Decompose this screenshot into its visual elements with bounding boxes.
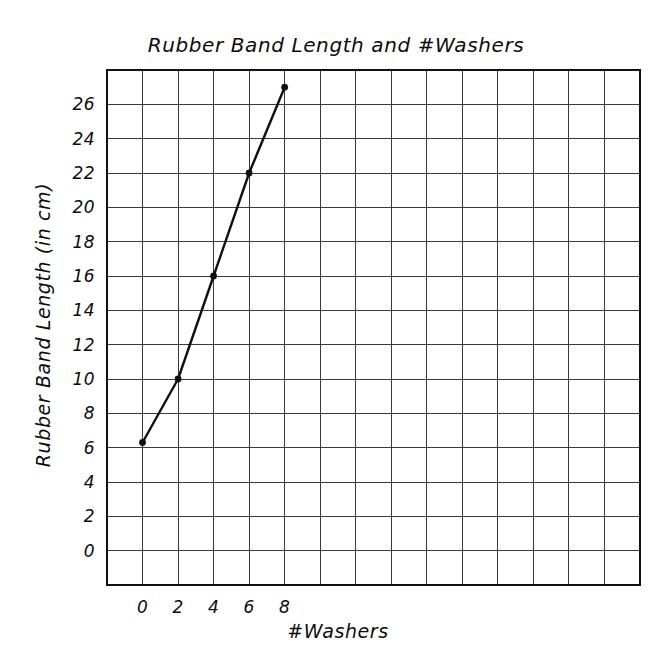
y-tick-label: 22 (73, 163, 95, 183)
data-point-marker (210, 273, 217, 280)
y-tick-label: 18 (73, 232, 95, 252)
y-tick-label: 0 (84, 541, 95, 561)
x-tick-label: 4 (208, 597, 219, 617)
y-tick-label: 8 (84, 403, 95, 423)
x-tick-label: 2 (172, 597, 183, 617)
y-tick-label: 14 (73, 300, 95, 320)
chart-title: Rubber Band Length and #Washers (148, 33, 525, 57)
y-tick-label: 12 (73, 335, 95, 355)
y-tick-label: 26 (73, 94, 95, 114)
data-point-marker (246, 170, 253, 177)
data-point-marker (175, 376, 182, 383)
chart-background (0, 0, 672, 658)
line-chart: Rubber Band Length and #Washers 02468101… (0, 0, 672, 658)
data-point-marker (281, 84, 288, 91)
y-tick-label: 20 (73, 197, 95, 217)
y-tick-label: 6 (84, 438, 95, 458)
y-axis-title: Rubber Band Length (in cm) (32, 183, 54, 467)
x-tick-label: 8 (279, 597, 290, 617)
y-tick-label: 2 (84, 506, 95, 526)
data-point-marker (139, 439, 146, 446)
y-tick-label: 4 (84, 472, 95, 492)
chart-container: Rubber Band Length and #Washers 02468101… (0, 0, 672, 658)
x-axis-title: #Washers (287, 620, 388, 642)
y-tick-label: 16 (73, 266, 95, 286)
y-tick-label: 24 (73, 129, 95, 149)
x-tick-label: 0 (137, 597, 148, 617)
y-tick-label: 10 (73, 369, 95, 389)
x-tick-label: 6 (244, 597, 255, 617)
